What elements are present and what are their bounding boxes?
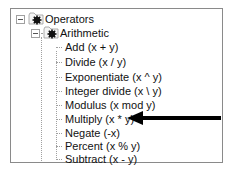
tree-leaf-exponentiate[interactable]: Exponentiate (x ^ y) (11, 70, 211, 84)
tree-leaf-integer-divide[interactable]: Integer divide (x \ y) (11, 84, 211, 98)
tree-leaf-percent[interactable]: Percent (x % y) (11, 139, 211, 153)
operators-tree-view[interactable]: Operators Arithmetic Add (x + y) Divide … (10, 8, 223, 163)
tree-guide-line (56, 91, 62, 92)
tree-guide-line (56, 146, 62, 147)
tree-guide-line (56, 159, 62, 160)
folder-gear-icon (28, 12, 44, 25)
collapse-toggle-icon[interactable] (31, 29, 40, 38)
collapse-toggle-icon[interactable] (16, 15, 25, 24)
tree-node-label: Multiply (x * y) (65, 112, 134, 126)
tree-guide-line (56, 119, 62, 120)
tree-leaf-divide[interactable]: Divide (x / y) (11, 55, 211, 69)
tree-node-label: Divide (x / y) (65, 55, 126, 69)
annotation-arrow-icon (127, 110, 223, 126)
tree-guide-line (56, 133, 62, 134)
tree-node-arithmetic[interactable]: Arithmetic (11, 26, 211, 40)
tree-node-label: Operators (45, 12, 94, 26)
tree-guide-line (56, 47, 62, 48)
tree-leaf-add[interactable]: Add (x + y) (11, 40, 211, 54)
tree-guide-line (56, 105, 62, 106)
tree-node-label: Percent (x % y) (65, 139, 140, 153)
tree-node-label: Subtract (x - y) (65, 152, 137, 166)
tree-guide-line (56, 77, 62, 78)
folder-gear-icon (43, 26, 59, 39)
tree-node-label: Negate (-x) (65, 126, 120, 140)
tree-node-label: Exponentiate (x ^ y) (65, 70, 162, 84)
tree-node-label: Arithmetic (60, 26, 109, 40)
tree-leaf-subtract[interactable]: Subtract (x - y) (11, 152, 211, 166)
tree-leaf-negate[interactable]: Negate (-x) (11, 126, 211, 140)
tree-guide-line (56, 62, 62, 63)
tree-node-operators[interactable]: Operators (11, 12, 211, 26)
tree-node-label: Add (x + y) (65, 40, 119, 54)
tree-node-label: Integer divide (x \ y) (65, 84, 162, 98)
